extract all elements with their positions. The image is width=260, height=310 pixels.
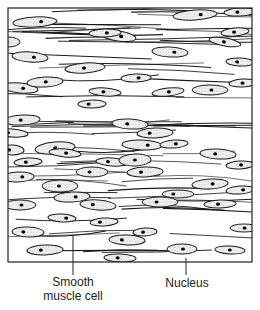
smooth-muscle-cell [27,244,63,255]
smooth-muscle-cell-label: Smooth muscle cell [33,275,113,303]
smooth-muscle-cell [121,73,151,82]
smooth-muscle-label-line1: Smooth [33,275,113,289]
smooth-muscle-cell [27,76,63,88]
smooth-muscle-cell [230,224,258,232]
smooth-muscle-cell [152,86,185,97]
smooth-muscle-cell [200,148,236,160]
smooth-muscle-cell [133,227,157,236]
nucleus-icon [171,192,175,195]
nucleus-label: Nucleus [160,276,214,290]
smooth-muscle-cell [14,157,42,166]
smooth-muscle-cell [162,190,194,198]
nucleus-icon [19,203,23,206]
smooth-muscle-diagram [0,0,260,310]
smooth-muscle-cell [49,148,82,159]
smooth-muscle-cell [167,244,197,254]
smooth-muscle-cell [112,118,148,130]
smooth-muscle-cell [215,245,245,255]
nucleus-icon [88,170,92,173]
smooth-muscle-label-line2: muscle cell [33,289,113,303]
smooth-muscle-cell [80,199,117,211]
spindle-fiber-line [77,3,202,10]
smooth-muscle-cell [4,200,36,210]
smooth-muscle-cell [78,100,106,108]
smooth-muscle-cell [137,127,173,138]
spindle-fiber-line [128,69,235,75]
smooth-muscle-cell [192,178,228,190]
smooth-muscle-cell [226,185,254,195]
smooth-muscle-cell [48,213,76,222]
smooth-muscle-cell [76,167,108,177]
nucleus-icon [209,88,213,91]
smooth-muscle-cell [2,171,34,182]
smooth-muscle-cell [104,253,136,262]
smooth-muscle-cell [142,197,178,207]
smooth-muscle-cell [229,78,257,87]
smooth-muscle-cell [0,128,28,138]
smooth-muscle-cell [90,217,118,226]
nucleus-icon [155,200,159,203]
smooth-muscle-cell [160,139,188,149]
spindle-fiber-line [108,188,210,191]
smooth-muscle-cell [226,58,254,67]
nucleus-icon [181,247,185,250]
smooth-muscle-cell [0,145,24,156]
nucleus-icon [243,226,247,229]
smooth-muscle-cell [192,85,228,95]
tissue-field [0,3,260,262]
smooth-muscle-cell [12,51,49,63]
smooth-muscle-cell [42,180,78,192]
smooth-muscle-cell [0,37,20,47]
nucleus-icon [57,184,61,187]
smooth-muscle-cell [226,160,254,169]
smooth-muscle-cell [122,139,162,150]
figure-border [8,8,252,262]
smooth-muscle-cell [119,153,151,166]
spindle-fiber-line [121,178,193,182]
spindle-fiber-line [170,233,260,239]
smooth-muscle-cell [12,226,44,237]
smooth-muscle-cell [13,16,57,28]
muscle-cells [0,7,258,262]
smooth-muscle-cell [152,46,188,58]
spindle-fiber-line [175,97,260,99]
